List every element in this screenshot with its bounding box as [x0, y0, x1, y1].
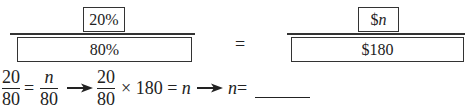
left-part-label: 20% — [89, 11, 118, 29]
right-part-prefix: $ — [371, 11, 379, 29]
right-arrow-icon — [197, 83, 223, 93]
equals-sign: = — [167, 78, 177, 98]
final-equation: n= — [228, 78, 247, 99]
left-whole-label: 80% — [90, 41, 119, 59]
equals-sign: = — [237, 78, 247, 98]
times-sign: × — [121, 78, 131, 98]
left-fraction-bar — [10, 33, 195, 35]
numerator: 20 — [2, 68, 20, 87]
equals-sign: = — [235, 34, 245, 55]
fraction-20-over-80: 20 80 — [97, 68, 115, 109]
left-whole-box: 80% — [17, 37, 192, 62]
factor: 180 — [136, 78, 163, 98]
variable: n — [228, 78, 237, 98]
fraction-20-over-80: 20 80 — [2, 68, 20, 109]
right-whole-label: $180 — [362, 41, 394, 59]
left-part-box: 20% — [83, 7, 125, 32]
result-variable: n — [182, 78, 191, 98]
right-whole-box: $180 — [291, 37, 464, 62]
right-part-variable: n — [379, 11, 387, 29]
right-arrow-icon — [67, 83, 93, 93]
equals-sign: = — [24, 78, 34, 99]
denominator: 80 — [97, 90, 115, 109]
denominator: 80 — [40, 90, 58, 109]
right-fraction-bar — [287, 33, 465, 35]
fraction-n-over-80: n 80 — [40, 68, 58, 109]
numerator: n — [45, 68, 54, 87]
multiplication-expression: × 180 = n — [121, 78, 191, 99]
numerator: 20 — [97, 68, 115, 87]
right-part-box: $n — [358, 7, 399, 32]
denominator: 80 — [2, 90, 20, 109]
answer-blank[interactable] — [255, 97, 310, 98]
